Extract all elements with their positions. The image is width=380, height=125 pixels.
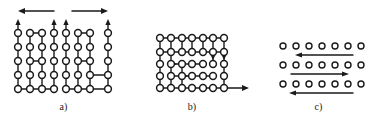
row-arrow-left-top: [295, 52, 353, 57]
shear-arrow-right: [72, 8, 108, 14]
panel-a-caption: a): [0, 101, 127, 112]
figure-container: a): [0, 0, 380, 125]
panel-c-caption: c): [257, 101, 380, 112]
row-arrow-right-middle: [291, 71, 349, 76]
atom-row-3: [280, 81, 364, 87]
panel-b: b): [127, 0, 257, 125]
panel-b-caption: b): [127, 101, 257, 112]
panel-a: a): [0, 0, 127, 125]
atom-lattice: [15, 30, 112, 93]
atom-row-2: [280, 62, 364, 68]
atom-row-1: [280, 43, 364, 49]
row-arrow-left-bottom: [289, 90, 353, 95]
shear-arrow-left: [18, 8, 54, 14]
panel-c: c): [257, 0, 380, 125]
